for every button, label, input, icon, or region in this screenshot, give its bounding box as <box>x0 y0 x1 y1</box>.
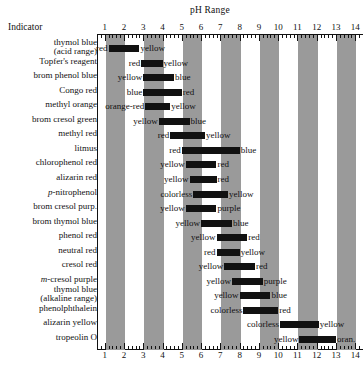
minor-tick <box>321 35 322 38</box>
minor-tick <box>328 35 329 38</box>
ph-transition-bar <box>217 234 248 241</box>
minor-tick <box>190 35 191 38</box>
minor-tick <box>351 35 352 38</box>
axis-tick-label: 13 <box>332 350 341 360</box>
minor-tick <box>213 35 214 38</box>
minor-tick <box>267 35 268 38</box>
indicator-name: chlorophenol red <box>5 157 97 167</box>
axis-tick-label: 4 <box>160 350 165 360</box>
minor-tick <box>170 35 171 38</box>
minor-tick <box>274 35 275 38</box>
minor-tick <box>193 35 194 38</box>
indicator-name: methyl orange <box>5 99 97 109</box>
minor-tick <box>301 35 302 38</box>
minor-tick <box>205 35 206 38</box>
minor-tick <box>97 35 98 38</box>
axis-tick-label: 8 <box>237 22 242 32</box>
indicator-name: p-nitrophenol <box>5 187 97 197</box>
base-color-label: yellow <box>240 247 266 258</box>
acid-color-label: orange-red <box>105 101 145 112</box>
base-color-label: blue <box>174 72 191 83</box>
indicator-name: cresol red <box>5 259 97 269</box>
indicator-name: m-cresol purple <box>5 274 97 284</box>
base-color-label: yellow <box>319 319 345 330</box>
acid-color-label: yellow <box>160 159 186 170</box>
axis-tick-label: 3 <box>141 350 146 360</box>
acid-color-label: yellow <box>199 261 225 272</box>
indicator-name: tropeolin O <box>5 332 97 342</box>
axis-tick-label: 13 <box>332 22 341 32</box>
minor-tick <box>186 35 187 38</box>
ph-transition-bar <box>217 249 240 256</box>
minor-tick <box>151 35 152 38</box>
acid-color-label: red <box>129 58 142 69</box>
ph-transition-bar <box>193 191 228 198</box>
indicator-name: phenol red <box>5 230 97 240</box>
minor-tick <box>263 35 264 38</box>
minor-tick <box>101 35 102 38</box>
ph-transition-bar <box>232 278 263 285</box>
axis-tick-label: 4 <box>160 22 165 32</box>
minor-tick <box>255 35 256 38</box>
axis-tick-label: 11 <box>293 22 302 32</box>
minor-tick <box>209 35 210 38</box>
base-color-label: yellow <box>163 58 189 69</box>
acid-color-label: yellow <box>274 334 300 345</box>
minor-tick <box>155 35 156 38</box>
base-color-label: red <box>217 159 230 170</box>
minor-tick <box>120 35 121 38</box>
base-color-label: red <box>182 87 195 98</box>
base-color-label: yellow <box>205 130 231 141</box>
indicator-name: Topfer's reagent <box>5 56 97 66</box>
indicator-name: brom cresol purp. <box>5 201 97 211</box>
indicator-name: brom thymol blue <box>5 216 97 226</box>
indicator-name: brom phenol blue <box>5 70 97 80</box>
ph-transition-bar <box>109 45 140 52</box>
minor-tick <box>247 35 248 38</box>
minor-tick <box>344 35 345 38</box>
axis-tick-label: 8 <box>237 350 242 360</box>
axis-tick-label: 6 <box>199 22 204 32</box>
acid-color-label: red <box>96 43 109 54</box>
axis-tick-label: 14 <box>351 350 360 360</box>
axis-tick-label: 10 <box>274 22 283 32</box>
minor-tick <box>305 35 306 38</box>
minor-tick <box>282 35 283 38</box>
ph-transition-bar <box>186 205 217 212</box>
ph-transition-bar <box>170 132 205 139</box>
axis-tick-label: 11 <box>293 350 302 360</box>
base-color-label: oran. <box>336 334 355 345</box>
indicator-name-prefix: m- <box>41 274 51 284</box>
ph-transition-bar <box>141 60 162 67</box>
ph-transition-bar <box>145 103 170 110</box>
axis-tick-label: 1 <box>102 22 107 32</box>
base-color-label: blue <box>270 290 287 301</box>
indicator-row: tropeolin Oyelloworan. <box>0 332 363 348</box>
indicator-name: litmus <box>5 143 97 153</box>
ph-indicator-chart: pH Range Indicator 1234567891011121314 1… <box>0 0 363 369</box>
minor-tick <box>340 35 341 38</box>
minor-tick <box>236 35 237 38</box>
acid-color-label: colorless <box>210 305 243 316</box>
axis-tick-label: 10 <box>274 350 283 360</box>
axis-tick-label: 3 <box>141 22 146 32</box>
minor-tick <box>116 35 117 38</box>
indicator-name: Congo red <box>5 85 97 95</box>
axis-tick-label: 7 <box>218 22 223 32</box>
minor-tick <box>174 35 175 38</box>
acid-color-label: colorless <box>160 189 193 200</box>
minor-tick <box>128 35 129 38</box>
axis-tick-label: 12 <box>312 350 321 360</box>
ph-transition-bar <box>186 161 217 168</box>
minor-tick <box>290 35 291 38</box>
acid-color-label: red <box>204 247 217 258</box>
base-color-label: red <box>278 305 291 316</box>
acid-color-label: colorless <box>247 319 280 330</box>
base-color-label: red <box>255 261 268 272</box>
indicator-name: alizarin red <box>5 172 97 182</box>
axis-tick-label: 9 <box>257 350 262 360</box>
minor-tick <box>313 35 314 38</box>
indicator-name: thymol blue(acid range) <box>5 37 97 56</box>
acid-color-label: yellow <box>191 232 217 243</box>
minor-tick <box>109 35 110 38</box>
